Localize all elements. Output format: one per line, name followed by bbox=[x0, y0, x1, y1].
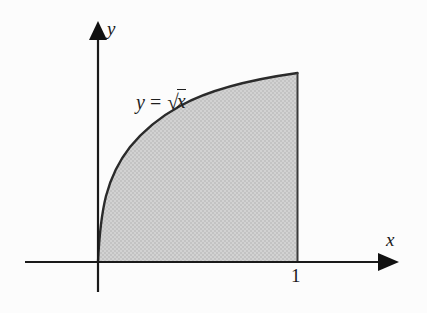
y-axis-label: y bbox=[107, 19, 115, 38]
equation-operator: = bbox=[145, 91, 166, 113]
equation-radicand: x bbox=[177, 89, 186, 111]
radical-group: √x bbox=[166, 90, 185, 113]
shaded-area-region bbox=[98, 73, 298, 262]
arrow-up-icon bbox=[89, 21, 107, 40]
x-axis-label: x bbox=[386, 230, 394, 249]
figure-container: y x 1 y=√x bbox=[0, 0, 427, 313]
curve-equation-annotation: y=√x bbox=[136, 90, 186, 113]
equation-lhs: y bbox=[136, 91, 145, 113]
plot-canvas bbox=[0, 0, 427, 313]
x-tick-label-1: 1 bbox=[291, 266, 301, 285]
arrow-right-icon bbox=[378, 253, 399, 271]
